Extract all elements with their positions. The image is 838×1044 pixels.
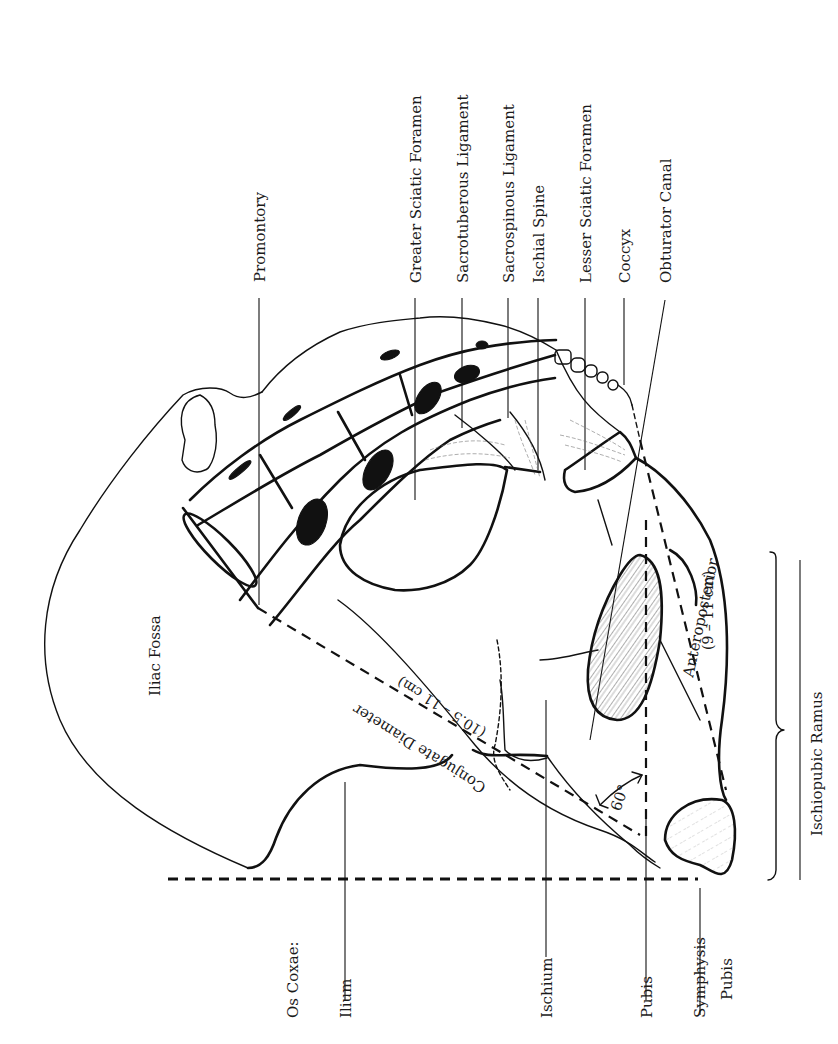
label-lesser-sciatic-foramen: Lesser Sciatic Foramen	[577, 104, 595, 283]
angle-label: 60°	[607, 782, 633, 813]
label-symphysis: Symphysis	[691, 937, 709, 1018]
label-conjugate-measure: (10.5 – 11 cm)	[394, 674, 488, 741]
bottom-labels: Os Coxae: Ilium Ischium Pubis Symphysis …	[284, 937, 736, 1018]
obturator-foramen	[588, 555, 662, 720]
label-ilium: Ilium	[337, 979, 355, 1018]
label-symphysis-pubis: Pubis	[718, 958, 736, 1000]
label-promontory: Promontory	[251, 192, 269, 282]
label-pubis: Pubis	[638, 976, 656, 1018]
label-sacrotuberous-ligament: Sacrotuberous Ligament	[454, 95, 472, 283]
label-ischium: Ischium	[538, 958, 556, 1018]
label-sacrospinous-ligament: Sacrospinous Ligament	[500, 104, 518, 283]
top-labels: Promontory Greater Sciatic Foramen Sacro…	[251, 95, 675, 283]
label-coccyx: Coccyx	[616, 228, 634, 283]
hip-bone-outline	[45, 388, 660, 868]
sacrum	[176, 317, 640, 625]
label-os-coxae: Os Coxae:	[284, 941, 302, 1018]
label-ischiopubic-ramus: Ischiopubic Ramus	[808, 691, 826, 836]
label-anteroposterior-measure: (9 – 11 cm)	[700, 571, 716, 650]
symphysis-pubis	[665, 799, 735, 874]
label-conjugate-diameter: Conjugate Diameter	[349, 700, 490, 797]
label-obturator-canal: Obturator Canal	[657, 158, 675, 283]
angle-marker: 60°	[596, 772, 642, 813]
label-iliac-fossa: Iliac Fossa	[146, 615, 164, 696]
label-ischial-spine: Ischial Spine	[530, 185, 548, 283]
label-greater-sciatic-foramen: Greater Sciatic Foramen	[407, 95, 425, 283]
pelvis-diagram: Promontory Greater Sciatic Foramen Sacro…	[0, 0, 838, 1044]
ischiopubic-ramus-brace: Ischiopubic Ramus	[768, 552, 826, 880]
